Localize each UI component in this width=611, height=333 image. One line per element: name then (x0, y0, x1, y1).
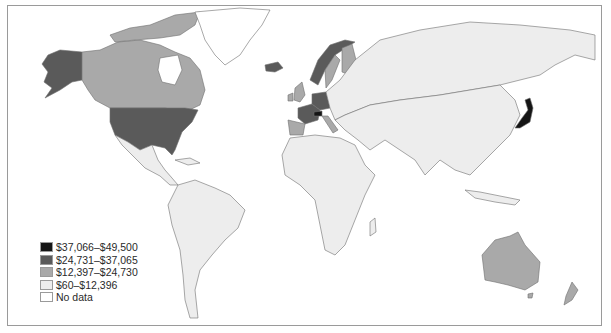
legend-label: $24,731–$37,065 (56, 254, 138, 266)
region-south-america (168, 180, 245, 318)
legend-item: $24,731–$37,065 (40, 254, 138, 267)
legend-label: No data (56, 291, 93, 303)
legend-item: $60–$12,396 (40, 279, 138, 292)
legend-label: $12,397–$24,730 (56, 266, 138, 278)
legend-label: $37,066–$49,500 (56, 241, 138, 253)
region-iberia (288, 120, 305, 135)
region-iceland (265, 62, 283, 72)
legend-item: $37,066–$49,500 (40, 241, 138, 254)
region-africa (282, 135, 375, 255)
region-alaska (42, 50, 82, 98)
legend-swatch (40, 242, 53, 252)
map-legend: $37,066–$49,500 $24,731–$37,065 $12,397–… (40, 241, 138, 304)
legend-item: $12,397–$24,730 (40, 266, 138, 279)
legend-label: $60–$12,396 (56, 279, 117, 291)
region-new-zealand (564, 282, 578, 305)
region-united-states (110, 108, 198, 155)
legend-swatch (40, 280, 53, 290)
region-caribbean (175, 158, 200, 165)
region-switzerland (314, 111, 322, 116)
region-canada (82, 40, 205, 112)
region-indonesia (465, 190, 520, 205)
legend-swatch (40, 255, 53, 265)
region-greenland (195, 8, 270, 65)
region-ireland (288, 93, 293, 101)
region-uk (294, 82, 305, 102)
region-canada-arctic (110, 12, 200, 42)
region-australia (482, 232, 540, 290)
region-madagascar (370, 218, 376, 236)
legend-swatch (40, 292, 53, 302)
legend-item: No data (40, 291, 138, 304)
region-tasmania (528, 293, 533, 298)
legend-swatch (40, 267, 53, 277)
